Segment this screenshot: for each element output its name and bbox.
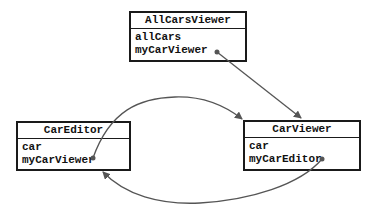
reference-arrows [0,0,379,211]
arrow-careditor-to-carviewer [93,97,242,158]
arrow-carviewer-to-careditor [103,159,322,203]
arrow-allcarsviewer-to-carviewer [217,52,301,118]
